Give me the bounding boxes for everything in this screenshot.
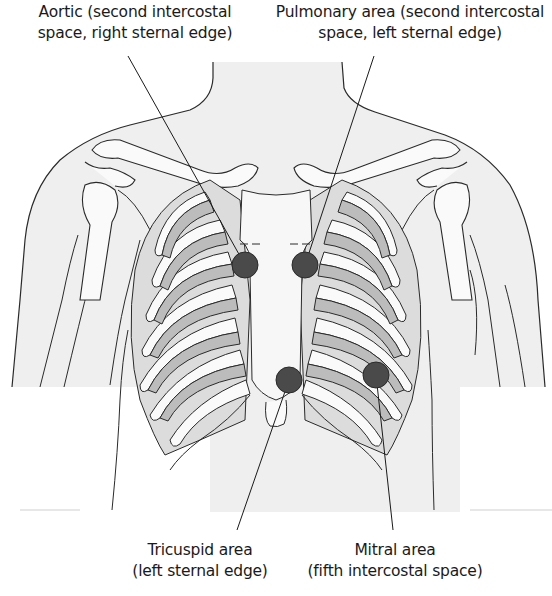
pulmonary-point-marker: [292, 252, 318, 278]
chest-illustration: [0, 0, 552, 596]
aortic-point-marker: [232, 252, 258, 278]
tricuspid-point-marker: [276, 367, 302, 393]
mitral-point-marker: [363, 362, 389, 388]
